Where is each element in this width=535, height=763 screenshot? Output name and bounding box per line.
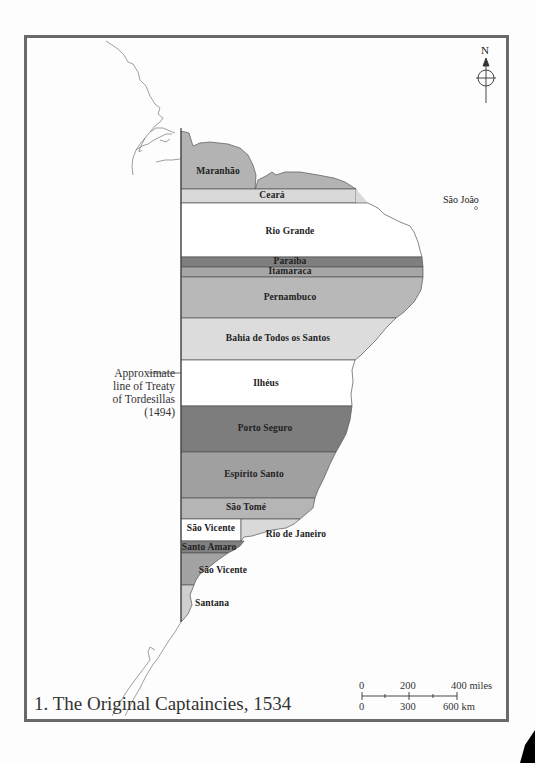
scale-km-600: 600 km [443,701,475,712]
scale-km-300: 300 [400,701,416,712]
label-espirito-santo: Espírito Santo [224,469,284,479]
label-sao-joao: São João [443,194,479,205]
label-sao-tome: São Tomé [226,502,266,512]
label-pernambuco: Pernambuco [264,292,317,302]
treaty-note: Approximate line of Treaty of Tordesilla… [112,367,175,419]
page-edge-shape [520,730,535,763]
label-sao-vicente-south: São Vicente [199,565,247,575]
treaty-line-1: Approximate [112,367,175,380]
scale-miles-200: 200 [400,680,416,691]
north-label: N [481,44,489,56]
treaty-line-4: (1494) [112,406,175,419]
label-ceara: Ceará [259,190,284,200]
label-sao-vicente-north: São Vicente [187,523,235,533]
label-rio-grande: Rio Grande [266,226,315,236]
label-paraiba: Paraíba [274,256,307,266]
region-maranhao [181,131,356,190]
scale-miles-0: 0 [359,680,364,691]
label-santo-amaro: Santo Amaro [182,542,237,552]
scale-bar [362,692,457,700]
label-santana: Santana [195,598,229,608]
label-maranhao: Maranhão [196,166,240,176]
label-rio-de-janeiro: Rio de Janeiro [266,529,326,539]
label-ilheus: Ilhéus [253,378,278,388]
scale-miles-400: 400 miles [451,680,492,691]
sao-joao-island-icon [475,207,478,210]
map-title: 1. The Original Captaincies, 1534 [34,693,291,715]
treaty-line-3: of Tordesillas [112,393,175,406]
amazon-delta-outline [106,41,180,175]
treaty-line-2: line of Treaty [112,380,175,393]
region-santana [181,585,194,622]
scale-km-0: 0 [359,701,364,712]
label-porto-seguro: Porto Seguro [238,423,293,433]
label-bahia: Bahia de Todos os Santos [226,333,330,343]
compass-icon [476,58,496,103]
label-itamaraca: Itamaraca [268,266,311,276]
